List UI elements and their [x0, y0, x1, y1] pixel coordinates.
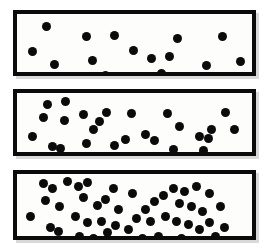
data-point [129, 46, 138, 55]
data-point [150, 136, 159, 145]
data-point [173, 34, 182, 43]
data-point [230, 125, 239, 134]
data-point [74, 182, 83, 191]
data-point [79, 193, 88, 202]
data-point [124, 225, 133, 234]
data-point [157, 69, 166, 73]
data-point [28, 132, 37, 141]
data-point [195, 225, 204, 234]
data-point [41, 196, 50, 205]
data-point [26, 212, 35, 221]
data-point [199, 146, 208, 152]
data-point [95, 117, 104, 126]
data-point [204, 134, 213, 143]
data-point [43, 100, 52, 109]
data-point [110, 141, 119, 150]
data-point [83, 218, 92, 227]
data-point [165, 52, 174, 61]
data-point [61, 97, 70, 106]
data-point [184, 220, 193, 229]
data-point [88, 56, 97, 65]
panel-low-density [13, 10, 256, 76]
data-point [60, 116, 69, 125]
panel-plot-area [17, 93, 252, 152]
data-point [154, 232, 163, 237]
data-point [42, 22, 51, 31]
data-point [121, 135, 130, 144]
data-point [147, 54, 156, 63]
data-point [161, 212, 170, 221]
data-point [101, 195, 110, 204]
data-point [211, 232, 220, 237]
data-point [221, 108, 230, 117]
data-point [39, 113, 48, 122]
data-point [93, 201, 102, 210]
data-point [177, 234, 186, 236]
data-point [138, 234, 147, 236]
data-point [146, 217, 155, 226]
data-point [89, 234, 98, 236]
data-point [79, 110, 88, 119]
data-point [236, 57, 245, 66]
data-point [56, 144, 65, 152]
data-point [127, 109, 136, 118]
data-point [114, 205, 123, 214]
data-point [175, 122, 184, 131]
data-point [132, 214, 141, 223]
data-point [220, 223, 229, 232]
data-point [202, 61, 211, 70]
data-point [163, 109, 172, 118]
data-point [207, 125, 216, 134]
data-point [169, 145, 178, 152]
data-point [192, 182, 201, 191]
data-point [109, 184, 118, 193]
panel-plot-area [17, 174, 252, 236]
data-point [63, 177, 72, 186]
data-point [28, 47, 37, 56]
data-point [150, 197, 159, 206]
data-point [205, 218, 214, 227]
data-point [82, 139, 91, 148]
data-point [218, 32, 227, 41]
data-point [101, 71, 110, 73]
data-point [187, 202, 196, 211]
data-point [50, 60, 59, 69]
data-point [180, 187, 189, 196]
data-point [54, 227, 63, 236]
data-point [71, 212, 80, 221]
data-point [198, 207, 207, 216]
data-point [195, 132, 204, 141]
data-point [102, 108, 111, 117]
data-point [39, 179, 48, 188]
data-point [55, 202, 64, 211]
data-point [82, 32, 91, 41]
data-point [175, 199, 184, 208]
data-point [89, 125, 98, 134]
data-point [103, 228, 112, 236]
data-point [169, 184, 178, 193]
data-point [111, 221, 120, 230]
data-point [141, 130, 150, 139]
data-point [172, 217, 181, 226]
data-point [75, 232, 84, 237]
data-point [83, 178, 92, 187]
data-point [205, 189, 214, 198]
data-point [159, 191, 168, 200]
data-point [216, 202, 225, 211]
panel-plot-area [17, 14, 252, 72]
data-point [128, 189, 137, 198]
data-point [141, 205, 150, 214]
density-figure [0, 0, 270, 252]
data-point [97, 217, 106, 226]
data-point [110, 31, 119, 40]
panel-medium-density [13, 89, 256, 156]
data-point [48, 184, 57, 193]
panel-high-density [13, 170, 256, 240]
